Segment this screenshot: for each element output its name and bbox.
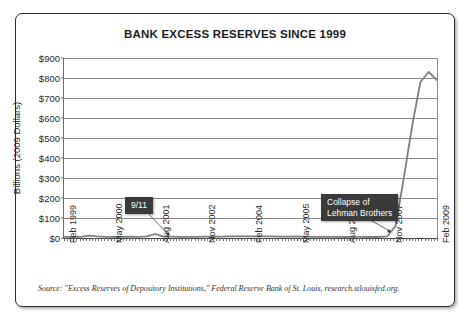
x-minor-tick bbox=[266, 238, 267, 241]
x-minor-tick bbox=[191, 238, 192, 241]
x-minor-tick bbox=[378, 238, 379, 241]
x-minor-tick bbox=[95, 238, 96, 241]
x-axis-label: May 2000 bbox=[114, 203, 124, 243]
x-axis-label: May 2005 bbox=[301, 203, 311, 243]
x-minor-tick bbox=[269, 238, 270, 241]
x-minor-tick bbox=[148, 238, 149, 241]
x-minor-tick bbox=[428, 238, 429, 241]
x-minor-tick bbox=[291, 238, 292, 241]
x-axis-label: Aug 2001 bbox=[161, 204, 171, 243]
x-minor-tick bbox=[325, 238, 326, 241]
x-minor-tick bbox=[185, 238, 186, 241]
x-minor-tick bbox=[201, 238, 202, 241]
x-minor-tick bbox=[359, 238, 360, 241]
x-major-tick bbox=[251, 238, 252, 241]
x-minor-tick bbox=[362, 238, 363, 241]
x-major-tick bbox=[344, 238, 345, 241]
x-axis-label: Nov 2002 bbox=[207, 204, 217, 243]
x-minor-tick bbox=[409, 238, 410, 241]
x-minor-tick bbox=[126, 238, 127, 241]
x-minor-tick bbox=[316, 238, 317, 241]
x-minor-tick bbox=[406, 238, 407, 241]
x-minor-tick bbox=[338, 238, 339, 241]
x-minor-tick bbox=[341, 238, 342, 241]
x-major-tick bbox=[437, 238, 438, 241]
x-minor-tick bbox=[282, 238, 283, 241]
x-minor-tick bbox=[139, 238, 140, 241]
x-axis-label: Feb 2004 bbox=[254, 205, 264, 243]
x-axis-label: Feb 2009 bbox=[441, 205, 451, 243]
x-major-tick bbox=[157, 238, 158, 241]
x-major-tick bbox=[204, 238, 205, 241]
ylabel-500: $500 bbox=[39, 133, 60, 144]
x-minor-tick bbox=[331, 238, 332, 241]
x-minor-tick bbox=[86, 238, 87, 241]
x-minor-tick bbox=[173, 238, 174, 241]
x-minor-tick bbox=[272, 238, 273, 241]
ylabel-400: $400 bbox=[39, 153, 60, 164]
ylabel-300: $300 bbox=[39, 173, 60, 184]
x-minor-tick bbox=[145, 238, 146, 241]
x-minor-tick bbox=[418, 238, 419, 241]
x-minor-tick bbox=[372, 238, 373, 241]
x-minor-tick bbox=[387, 238, 388, 241]
x-minor-tick bbox=[151, 238, 152, 241]
x-minor-tick bbox=[176, 238, 177, 241]
x-minor-tick bbox=[135, 238, 136, 241]
x-minor-tick bbox=[278, 238, 279, 241]
x-axis-label: Feb 1999 bbox=[68, 205, 78, 243]
x-minor-tick bbox=[89, 238, 90, 241]
chart-card: BANK EXCESS RESERVES SINCE 1999 Billions… bbox=[15, 13, 455, 307]
x-minor-tick bbox=[313, 238, 314, 241]
x-minor-tick bbox=[322, 238, 323, 241]
x-minor-tick bbox=[179, 238, 180, 241]
x-major-tick bbox=[297, 238, 298, 241]
x-minor-tick bbox=[226, 238, 227, 241]
x-minor-tick bbox=[412, 238, 413, 241]
x-minor-tick bbox=[154, 238, 155, 241]
x-minor-tick bbox=[294, 238, 295, 241]
x-minor-tick bbox=[328, 238, 329, 241]
ylabel-800: $800 bbox=[39, 73, 60, 84]
x-minor-tick bbox=[104, 238, 105, 241]
x-minor-tick bbox=[369, 238, 370, 241]
x-minor-tick bbox=[431, 238, 432, 241]
ylabel-900: $900 bbox=[39, 53, 60, 64]
x-minor-tick bbox=[244, 238, 245, 241]
x-minor-tick bbox=[247, 238, 248, 241]
x-minor-tick bbox=[80, 238, 81, 241]
ylabel-100: $100 bbox=[39, 213, 60, 224]
x-major-tick bbox=[390, 238, 391, 241]
x-minor-tick bbox=[334, 238, 335, 241]
x-minor-tick bbox=[275, 238, 276, 241]
ylabel-200: $200 bbox=[39, 193, 60, 204]
x-minor-tick bbox=[238, 238, 239, 241]
x-minor-tick bbox=[182, 238, 183, 241]
x-minor-tick bbox=[92, 238, 93, 241]
y-axis-title: Billions (2009 Dollars) bbox=[10, 58, 24, 238]
x-major-tick bbox=[111, 238, 112, 241]
x-minor-tick bbox=[129, 238, 130, 241]
x-minor-tick bbox=[98, 238, 99, 241]
ylabel-700: $700 bbox=[39, 93, 60, 104]
x-minor-tick bbox=[142, 238, 143, 241]
x-minor-tick bbox=[241, 238, 242, 241]
x-minor-tick bbox=[229, 238, 230, 241]
x-minor-tick bbox=[108, 238, 109, 241]
chart-title: BANK EXCESS RESERVES SINCE 1999 bbox=[16, 28, 454, 40]
ylabel-0: $0 bbox=[49, 233, 60, 244]
x-minor-tick bbox=[195, 238, 196, 241]
x-minor-tick bbox=[101, 238, 102, 241]
x-minor-tick bbox=[421, 238, 422, 241]
x-major-tick bbox=[64, 238, 65, 241]
annotation-911: 9/11 bbox=[125, 197, 153, 214]
x-minor-tick bbox=[219, 238, 220, 241]
x-minor-tick bbox=[366, 238, 367, 241]
x-minor-tick bbox=[381, 238, 382, 241]
ylabel-600: $600 bbox=[39, 113, 60, 124]
x-minor-tick bbox=[375, 238, 376, 241]
x-minor-tick bbox=[83, 238, 84, 241]
source-note: Source: "Excess Reserves of Depository I… bbox=[38, 284, 440, 293]
x-minor-tick bbox=[384, 238, 385, 241]
x-minor-tick bbox=[415, 238, 416, 241]
